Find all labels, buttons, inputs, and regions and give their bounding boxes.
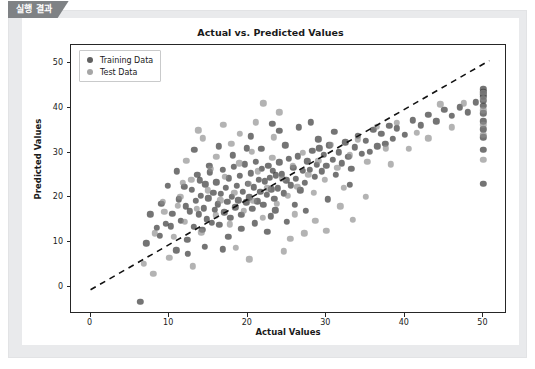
scatter-point	[183, 157, 189, 163]
scatter-point	[331, 129, 337, 135]
x-axis-tick-label: 0	[87, 318, 92, 327]
scatter-point	[226, 221, 232, 227]
y-axis-tick-label: 10	[38, 237, 63, 246]
scatter-point	[252, 220, 258, 226]
scatter-point	[221, 209, 227, 215]
scatter-point	[213, 179, 219, 185]
scatter-point	[225, 234, 231, 240]
scatter-point	[195, 127, 201, 133]
scatter-point	[270, 134, 276, 140]
scatter-point	[259, 215, 265, 221]
scatter-point	[260, 100, 266, 106]
scatter-point	[328, 141, 334, 147]
scatter-point	[143, 240, 149, 246]
scatter-point	[472, 99, 478, 105]
scatter-point	[301, 230, 307, 236]
legend-label-training: Training Data	[100, 56, 153, 65]
legend-marker-test-icon	[87, 69, 93, 75]
scatter-point	[366, 148, 372, 154]
scatter-point	[337, 203, 343, 209]
x-axis-tick	[247, 313, 248, 317]
scatter-point	[169, 210, 175, 216]
scatter-point	[480, 147, 486, 153]
scatter-point	[480, 157, 486, 163]
scatter-point	[252, 158, 258, 164]
scatter-point	[461, 100, 467, 106]
scatter-point	[248, 148, 254, 154]
scatter-point	[329, 157, 335, 163]
scatter-point	[212, 212, 218, 218]
scatter-point	[355, 136, 361, 142]
scatter-point	[232, 204, 238, 210]
y-axis-tick	[67, 241, 71, 242]
scatter-point	[292, 201, 298, 207]
scatter-point	[348, 166, 354, 172]
y-axis-tick-label: 0	[38, 282, 63, 291]
scatter-point	[287, 235, 293, 241]
scatter-point	[388, 161, 394, 167]
scatter-point	[350, 217, 356, 223]
scatter-point	[220, 122, 226, 128]
scatter-point	[223, 185, 229, 191]
scatter-point	[373, 123, 379, 129]
scatter-point	[193, 198, 199, 204]
scatter-point	[264, 228, 270, 234]
scatter-point	[197, 192, 203, 198]
scatter-point	[269, 121, 275, 127]
scatter-point	[237, 173, 243, 179]
scatter-point	[269, 155, 275, 161]
scatter-point	[201, 244, 207, 250]
scatter-point	[480, 180, 486, 186]
scatter-point	[342, 139, 348, 145]
scatter-point	[227, 214, 233, 220]
scatter-point	[315, 136, 321, 142]
scatter-point	[274, 201, 280, 207]
scatter-point	[276, 109, 282, 115]
x-axis-tick	[90, 313, 91, 317]
x-axis-tick-label: 50	[477, 318, 487, 327]
scatter-point	[374, 143, 380, 149]
scatter-point	[358, 150, 364, 156]
x-axis-tick-label: 40	[399, 318, 409, 327]
plot-area	[70, 44, 506, 313]
y-axis-tick	[67, 107, 71, 108]
scatter-point	[196, 211, 202, 217]
scatter-point	[166, 254, 172, 260]
scatter-point	[217, 197, 223, 203]
scatter-point	[228, 140, 234, 146]
scatter-point	[147, 211, 153, 217]
scatter-point	[248, 170, 254, 176]
scatter-point	[248, 133, 254, 139]
scatter-point	[246, 256, 252, 262]
scatter-point	[311, 174, 317, 180]
scatter-point	[185, 251, 191, 257]
scatter-point	[318, 168, 324, 174]
chart-legend[interactable]: Training Data Test Data	[79, 50, 161, 82]
scatter-point	[184, 236, 190, 242]
scatter-point	[235, 197, 241, 203]
chart-figure: Actual vs. Predicted Values 010203040500…	[22, 18, 519, 345]
scatter-point	[251, 184, 257, 190]
scatter-point	[402, 131, 408, 137]
scatter-point	[282, 142, 288, 148]
scatter-point	[241, 208, 247, 214]
scatter-point	[441, 106, 447, 112]
scatter-point	[315, 157, 321, 163]
scatter-point	[249, 206, 255, 212]
y-axis-title: Predicted Values	[33, 99, 43, 219]
scatter-point	[347, 182, 353, 188]
scatter-point	[208, 166, 214, 172]
scatter-point	[164, 183, 170, 189]
scatter-point	[219, 246, 225, 252]
legend-label-test: Test Data	[100, 68, 137, 77]
y-axis-tick-label: 50	[38, 57, 63, 66]
x-axis-tick-label: 10	[163, 318, 173, 327]
scatter-point	[177, 194, 183, 200]
scatter-point	[316, 145, 322, 151]
scatter-point	[168, 223, 174, 229]
scatter-point	[161, 209, 167, 215]
scatter-point	[263, 192, 269, 198]
scatter-point	[383, 145, 389, 151]
scatter-point	[362, 193, 368, 199]
x-axis-tick	[325, 313, 326, 317]
